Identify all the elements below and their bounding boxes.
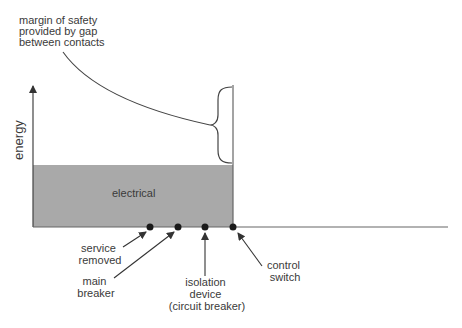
marker-dot-service-removed [147, 224, 154, 231]
y-axis-label: energy [11, 120, 26, 160]
arrow-service-removed [123, 232, 146, 247]
annotation-leader-line [63, 52, 210, 125]
marker-dot-isolation-device [202, 224, 209, 231]
label-isolation-device: isolation device (circuit breaker) [169, 276, 245, 312]
label-control-switch: control switch [267, 259, 303, 283]
marker-dot-control-switch [230, 224, 237, 231]
marker-dot-main-breaker [175, 224, 182, 231]
electrical-label: electrical [112, 187, 155, 199]
annotation-text: margin of safety provided by gap between… [19, 14, 105, 48]
brace-icon [210, 87, 232, 163]
arrow-control-switch [238, 233, 262, 266]
label-main-breaker: main breaker [77, 275, 115, 299]
energy-isolation-diagram: margin of safety provided by gap between… [0, 0, 462, 328]
arrow-main-breaker [114, 232, 174, 278]
label-service-removed: service removed [79, 242, 122, 266]
